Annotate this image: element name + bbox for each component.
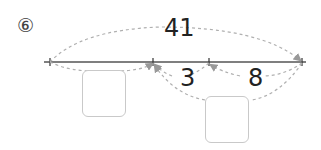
segment-b-label: 8 — [248, 66, 263, 90]
arc-8 — [211, 65, 240, 76]
answer-box-1[interactable] — [82, 70, 126, 117]
segment-a-label: 3 — [180, 66, 195, 90]
problem-number: ⑥ — [17, 16, 34, 35]
arc-3 — [155, 65, 172, 76]
answer-box-2[interactable] — [205, 96, 249, 143]
total-label: 41 — [164, 16, 195, 40]
number-line-diagram — [0, 0, 321, 150]
